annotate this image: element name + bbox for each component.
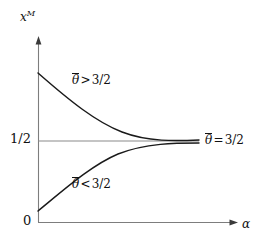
theta-bar-symbol-middle: θ — [205, 133, 212, 146]
fraction-value-lower: 3/2 — [92, 177, 111, 191]
annotation-theta-equal: θ=3/2 — [205, 133, 244, 146]
figure-container: xM 1/2 0 α θ>3/2 θ=3/2 θ<3/2 — [0, 0, 266, 247]
x-axis — [38, 220, 238, 226]
annotation-theta-less: θ<3/2 — [72, 177, 111, 190]
y-axis — [36, 36, 42, 223]
curve-theta-greater — [38, 73, 199, 141]
relation-symbol-upper: > — [79, 73, 91, 87]
y-axis-tick-label-half: 1/2 — [10, 132, 31, 145]
annotation-theta-greater: θ>3/2 — [72, 73, 111, 86]
origin-label: 0 — [23, 214, 31, 227]
fraction-value-middle: 3/2 — [225, 133, 244, 147]
relation-symbol-middle: = — [212, 133, 224, 147]
x-axis-arrowhead — [230, 220, 239, 226]
relation-symbol-lower: < — [79, 177, 91, 191]
x-axis-label: α — [242, 218, 250, 230]
y-axis-label-base: x — [20, 10, 27, 24]
y-axis-label: xM — [20, 9, 35, 23]
fraction-value-upper: 3/2 — [92, 73, 111, 87]
y-axis-label-superscript: M — [27, 8, 35, 18]
theta-bar-symbol-lower: θ — [72, 177, 79, 190]
theta-bar-symbol-upper: θ — [72, 73, 79, 86]
plot-canvas — [0, 0, 266, 247]
y-axis-arrowhead — [36, 36, 42, 45]
curve-theta-less — [38, 143, 199, 211]
